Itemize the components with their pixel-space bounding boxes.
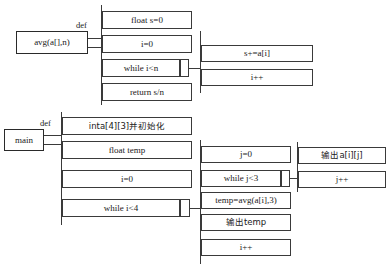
main-connector-bottom [44, 144, 62, 145]
main-stmt-array-init-text: inta[4][3]并初始化 [89, 122, 165, 131]
main-inner-loop-stmt-print-elem-text: 输出a[i][j] [321, 151, 362, 160]
avg-stmt-i-init: i=0 [102, 35, 192, 53]
main-stmt-array-init: inta[4][3]并初始化 [62, 117, 192, 135]
main-stmt-i-init: i=0 [62, 170, 192, 188]
avg-stmt-return: return s/n [102, 83, 192, 101]
main-inner-loop-stmt-print-elem: 输出a[i][j] [298, 147, 386, 164]
avg-while-loop-notch [180, 59, 189, 77]
avg-stmt-float-s: float s=0 [102, 11, 192, 29]
avg-loop-stmt-increment: i++ [201, 69, 313, 86]
pad-flowchart-diagram: def avg(a[],n) float s=0 i=0 while i<n r… [0, 0, 391, 274]
avg-def-label: def [76, 20, 87, 30]
main-def-label: def [40, 118, 51, 128]
avg-loop-stmt-accumulate: s+=a[i] [201, 45, 313, 62]
avg-connector-top [88, 38, 102, 39]
main-loop-stmt-temp-assign: temp=avg(a[i],3) [201, 192, 291, 209]
main-stmt-while-i: while i<4 [62, 199, 180, 217]
main-connector-top [44, 135, 62, 136]
main-while-j-loop-notch [281, 170, 290, 187]
avg-connector-bottom [88, 47, 102, 48]
main-loop-stmt-print-temp-text: 输出temp [226, 218, 266, 227]
main-loop-stmt-print-temp: 输出temp [201, 214, 291, 231]
main-loop-stmt-while-j: while j<3 [201, 170, 281, 187]
main-stmt-float-temp: float temp [62, 141, 192, 159]
main-loop-stmt-i-increment: i++ [201, 239, 291, 256]
avg-procedure-name-box: avg(a[],n) [16, 31, 88, 54]
main-while-i-loop-notch [180, 199, 190, 217]
main-procedure-name-box: main [4, 129, 44, 151]
main-loop-stmt-j-init: j=0 [201, 146, 291, 163]
avg-stmt-while: while i<n [102, 59, 180, 77]
main-inner-loop-stmt-j-increment: j++ [298, 171, 386, 188]
